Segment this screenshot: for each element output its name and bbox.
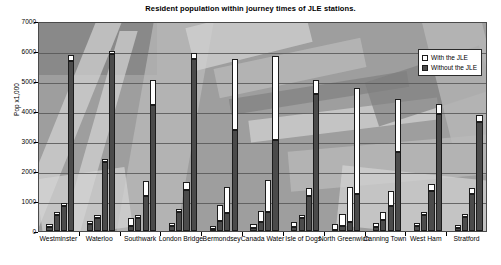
plot-area: With the JLE Without the JLE (38, 22, 487, 232)
bar-segment-without-jle (135, 218, 141, 231)
bar-segment-without-jle (380, 220, 386, 231)
bar-group-item (224, 22, 230, 231)
bar-group-item (46, 22, 52, 231)
y-tick-label: 2000 (2, 168, 36, 175)
bar-segment-without-jle (306, 196, 312, 231)
bar-segment-with-jle (217, 205, 223, 222)
bar-segment-without-jle (191, 59, 197, 231)
legend: With the JLE Without the JLE (418, 49, 482, 76)
x-tick-mark (79, 232, 80, 236)
bar-segment-without-jle (109, 54, 115, 231)
bar-segment-without-jle (339, 226, 345, 231)
bar-segment-without-jle (169, 226, 175, 231)
bar-group-item (354, 22, 360, 231)
bar-group-item (250, 22, 256, 231)
bar-segment-without-jle (143, 196, 149, 231)
bar-group-item (332, 22, 338, 231)
legend-swatch-without-icon (422, 65, 428, 71)
y-tick-label: 1000 (2, 198, 36, 205)
legend-swatch-with-icon (422, 55, 428, 61)
bar-segment-without-jle (150, 105, 156, 231)
bar-segment-without-jle (183, 190, 189, 231)
x-tick-mark (283, 232, 284, 236)
bar-segment-without-jle (428, 191, 434, 231)
bar-segment-without-jle (232, 130, 238, 231)
bar-segment-without-jle (291, 227, 297, 231)
bar-segment-with-jle (380, 212, 386, 220)
bar-segment-without-jle (299, 218, 305, 231)
bar-segment-with-jle (339, 214, 345, 225)
y-tick-label: 7000 (2, 18, 36, 25)
bar-group-item (135, 22, 141, 231)
bar-group-item (176, 22, 182, 231)
x-tick-mark (242, 232, 243, 236)
bar-group-item (54, 22, 60, 231)
bar-segment-without-jle (469, 194, 475, 231)
bar-group-item (272, 22, 278, 231)
bar-segment-without-jle (68, 61, 74, 231)
bar-segment-without-jle (54, 215, 60, 231)
bar-group-item (217, 22, 223, 231)
bar-segment-without-jle (395, 152, 401, 231)
bar-group-item (102, 22, 108, 231)
bar-group-item (94, 22, 100, 231)
bar-segment-with-jle (183, 182, 189, 189)
bar-segment-with-jle (476, 115, 482, 122)
bar-group-item (191, 22, 197, 231)
x-tick-mark (365, 232, 366, 236)
bar-segment-without-jle (94, 218, 100, 231)
bar-segment-without-jle (46, 227, 52, 232)
bar-segment-without-jle (217, 221, 223, 231)
bar-group-item (339, 22, 345, 231)
y-tick-label: 5000 (2, 78, 36, 85)
y-tick-label: 6000 (2, 48, 36, 55)
bar-segment-without-jle (176, 212, 182, 231)
bar-segment-without-jle (436, 114, 442, 231)
bar-segment-with-jle (272, 56, 278, 140)
legend-item-without: Without the JLE (422, 63, 477, 72)
bar-group-item (109, 22, 115, 231)
bar-group-item (265, 22, 271, 231)
bar-group-item (61, 22, 67, 231)
bar-segment-with-jle (395, 99, 401, 152)
x-tick-mark (160, 232, 161, 236)
bar-segment-with-jle (428, 184, 434, 191)
y-axis-ticks: 01000200030004000500060007000 (0, 22, 36, 232)
bar-segment-with-jle (258, 211, 264, 222)
bar-segment-without-jle (250, 228, 256, 231)
bar-segment-with-jle (347, 187, 353, 222)
bar-group-item (380, 22, 386, 231)
bar-segment-without-jle (87, 224, 93, 231)
bar-segment-without-jle (265, 212, 271, 231)
bar-segment-without-jle (128, 226, 134, 231)
bar-segment-without-jle (373, 227, 379, 231)
x-axis-labels: WestminsterWaterlooSouthwarkLondon Bridg… (38, 235, 487, 265)
bar-segment-without-jle (332, 229, 338, 231)
bar-segment-without-jle (421, 215, 427, 231)
bar-segment-without-jle (462, 217, 468, 231)
y-tick-mark (34, 232, 38, 233)
x-tick-mark (446, 232, 447, 236)
bar-segment-with-jle (436, 104, 442, 114)
bar-segment-with-jle (232, 59, 238, 130)
bar-group-item (291, 22, 297, 231)
bar-segment-without-jle (347, 222, 353, 231)
y-tick-label: 3000 (2, 138, 36, 145)
bar-group-item (373, 22, 379, 231)
bar-segment-without-jle (388, 206, 394, 231)
chart-root: Resident population within journey times… (0, 0, 501, 265)
bar-segment-with-jle (143, 181, 149, 196)
bar-group-item (128, 22, 134, 231)
bar-segment-with-jle (306, 188, 312, 195)
x-tick-label: Stratford (439, 235, 495, 244)
bar-segment-with-jle (128, 218, 134, 225)
y-tick-label: 0 (2, 228, 36, 235)
legend-label-without: Without the JLE (431, 64, 477, 71)
bar-segment-without-jle (455, 228, 461, 231)
bar-group-item (388, 22, 394, 231)
bar-group-item (87, 22, 93, 231)
bar-segment-with-jle (388, 191, 394, 206)
bar-segment-with-jle (191, 53, 197, 60)
bar-segment-with-jle (313, 80, 319, 94)
bar-segment-without-jle (210, 229, 216, 231)
